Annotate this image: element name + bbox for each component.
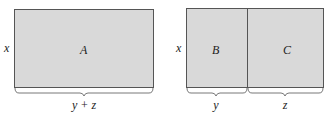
brace-y [187, 88, 247, 96]
right-figure: x B C y z [175, 9, 324, 113]
bottom-label-y: y [212, 98, 219, 112]
region-label-b: B [212, 43, 220, 57]
left-figure: x A y + z [3, 10, 154, 113]
brace-y-plus-z [15, 88, 153, 96]
bottom-label-z: z [282, 98, 288, 112]
side-label-x-right: x [175, 41, 182, 55]
region-label-a: A [79, 43, 88, 57]
brace-z [248, 88, 323, 96]
bottom-label-y-plus-z: y + z [71, 98, 96, 112]
side-label-x-left: x [3, 41, 10, 55]
region-label-c: C [283, 43, 292, 57]
area-diagram: x A y + z x B C y z [0, 0, 329, 120]
